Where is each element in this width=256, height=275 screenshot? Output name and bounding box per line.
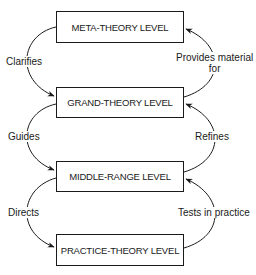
label-refines: Refines — [195, 131, 229, 142]
grand-theory-level-box: GRAND-THEORY LEVEL — [56, 87, 184, 118]
label-line: Provides material — [176, 52, 253, 63]
meta-theory-level-box: META-THEORY LEVEL — [56, 11, 184, 43]
label-directs: Directs — [8, 207, 39, 218]
label-guides: Guides — [8, 131, 40, 142]
level-label: MIDDLE-RANGE LEVEL — [69, 171, 170, 182]
level-label: META-THEORY LEVEL — [72, 22, 169, 33]
label-clarifies: Clarifies — [6, 56, 42, 67]
level-label: PRACTICE-THEORY LEVEL — [61, 245, 179, 256]
label-tests-in-practice: Tests in practice — [178, 207, 250, 218]
label-line: for — [176, 63, 253, 74]
level-label: GRAND-THEORY LEVEL — [67, 97, 172, 108]
practice-theory-level-box: PRACTICE-THEORY LEVEL — [56, 234, 184, 266]
label-provides-material: Provides material for — [176, 52, 253, 74]
middle-range-level-box: MIDDLE-RANGE LEVEL — [56, 161, 184, 192]
